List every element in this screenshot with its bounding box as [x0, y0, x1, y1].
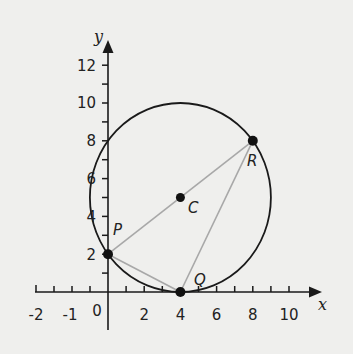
- x-tick-label: 0: [92, 302, 102, 320]
- y-ticks: [102, 65, 108, 273]
- y-tick-label: 6: [86, 170, 96, 188]
- x-tick-label: 8: [248, 306, 258, 324]
- point-q-label: Q: [194, 271, 206, 289]
- point-p-label: P: [113, 221, 123, 239]
- point-p: [103, 249, 113, 259]
- x-tick-label: 4: [176, 306, 186, 324]
- point-c-label: C: [188, 199, 199, 217]
- y-axis-arrow-icon: [103, 40, 114, 53]
- x-tick-label: 2: [139, 306, 149, 324]
- y-tick-label: 8: [86, 132, 96, 150]
- x-ticks: [36, 285, 289, 292]
- y-tick-label: 10: [77, 94, 96, 112]
- point-q: [175, 287, 185, 297]
- y-axis-label: y: [93, 27, 104, 46]
- point-c: [176, 193, 185, 202]
- coordinate-diagram: -2 -1 0 2 4 6 8 10 2 4 6 8 10 12 x y P Q…: [0, 0, 353, 354]
- x-axis-label: x: [318, 295, 327, 314]
- y-tick-label: 4: [86, 208, 96, 226]
- y-tick-label: 2: [86, 246, 96, 264]
- y-tick-label: 12: [77, 57, 96, 75]
- point-r-label: R: [247, 152, 257, 170]
- x-tick-label: -2: [29, 306, 44, 324]
- x-tick-label: -1: [63, 306, 78, 324]
- x-tick-label: 6: [212, 306, 222, 324]
- point-r: [248, 136, 258, 146]
- x-tick-label: 10: [279, 306, 298, 324]
